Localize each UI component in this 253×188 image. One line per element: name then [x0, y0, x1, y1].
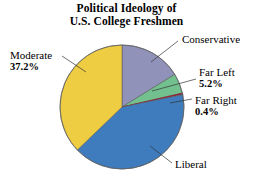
slice-label-far-left-name: Far Left — [199, 66, 235, 78]
slice-label-conservative-name: Conservative — [182, 33, 240, 45]
slice-label-far-right-value: 0.4% — [195, 106, 237, 118]
slice-label-moderate: Moderate 37.2% — [10, 49, 52, 73]
slice-label-moderate-value: 37.2% — [10, 61, 52, 73]
slice-label-moderate-name: Moderate — [10, 49, 52, 61]
slice-label-conservative: Conservative — [182, 33, 240, 45]
slice-label-liberal: Liberal — [175, 158, 207, 170]
slice-label-far-right: Far Right 0.4% — [195, 94, 237, 118]
slice-label-liberal-name: Liberal — [175, 158, 207, 170]
slice-label-far-left: Far Left 5.2% — [199, 66, 235, 90]
pie-chart-figure: Political Ideology of U.S. College Fresh… — [0, 0, 253, 188]
leader-line-conservative — [151, 41, 178, 62]
pie-slices — [60, 45, 184, 169]
slice-label-far-right-name: Far Right — [195, 94, 237, 106]
slice-label-far-left-value: 5.2% — [199, 78, 235, 90]
